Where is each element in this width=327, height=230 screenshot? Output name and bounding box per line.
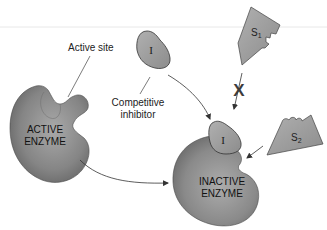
inhibitor-leader	[140, 77, 150, 94]
competitive-inhibitor-label-line1: Competitive	[112, 97, 165, 108]
inactive-enzyme-label-line2: ENZYME	[201, 188, 243, 199]
active-enzyme-label-line1: ACTIVE	[27, 124, 63, 135]
inactive-enzyme-label-line1: INACTIVE	[199, 176, 245, 187]
inhibitor-symbol: I	[149, 44, 153, 56]
active-site-leader	[68, 56, 90, 97]
active-enzyme-label-line2: ENZYME	[24, 136, 66, 147]
competitive-inhibitor-label-line2: inhibitor	[120, 109, 156, 120]
arrow-s2-to-enzyme	[247, 146, 263, 158]
arrow-active-to-inactive	[80, 160, 168, 183]
inhibitor-bound	[209, 121, 241, 154]
arrow-inhibitor-to-enzyme	[168, 75, 210, 119]
competitive-inhibition-diagram: ACTIVE ENZYME Active site I Competitive …	[0, 0, 327, 230]
inhibitor-free	[137, 31, 170, 69]
active-site-label: Active site	[68, 42, 114, 53]
inhibitor-bound-symbol: I	[221, 134, 225, 146]
blocked-x-mark: X	[233, 81, 245, 100]
